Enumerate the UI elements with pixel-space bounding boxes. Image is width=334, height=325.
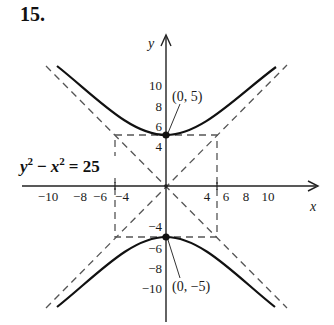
problem-number: 15. — [20, 3, 45, 25]
vertex-bottom-dot — [162, 233, 169, 240]
origin-dot — [164, 184, 168, 188]
y-tick-label: 6 — [156, 119, 163, 134]
label-top-vertex: (0, 5) — [172, 89, 203, 105]
x-tick-label: 6 — [223, 189, 230, 204]
x-tick-label: 4 — [204, 189, 211, 204]
x-tick-label: 8 — [243, 189, 250, 204]
y-tick-label: −6 — [148, 241, 162, 256]
x-tick-label: 10 — [262, 189, 275, 204]
y-tick-label: −8 — [148, 261, 162, 276]
hyperbola-figure: 15. (0, 5) (0, −5) y x −10 −8 −6 −4 4 6 … — [0, 0, 334, 325]
x-tick-label: −8 — [73, 189, 87, 204]
leader-top — [168, 104, 180, 133]
y-tick-label: −10 — [142, 281, 162, 296]
y-tick-label: 8 — [156, 99, 163, 114]
y-axis-label: y — [146, 36, 155, 51]
x-tick-label: −6 — [93, 189, 107, 204]
label-bottom-vertex: (0, −5) — [172, 279, 211, 295]
x-tick-label: −4 — [115, 189, 129, 204]
x-tick-label: −10 — [38, 189, 58, 204]
x-axis-label: x — [309, 199, 317, 214]
y-tick-label: −4 — [148, 219, 162, 234]
leader-bottom — [168, 240, 180, 278]
y-tick-label: 4 — [156, 139, 163, 154]
y-tick-label: 10 — [149, 78, 162, 93]
